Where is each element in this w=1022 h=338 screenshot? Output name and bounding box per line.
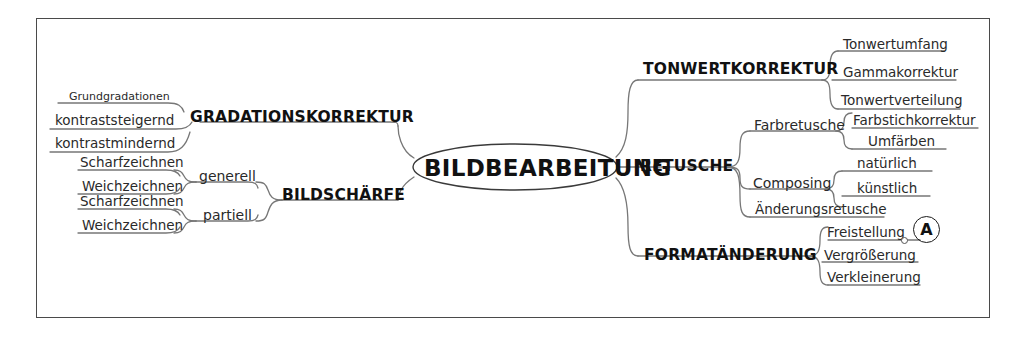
leaf-label-tonwertumfang[interactable]: Tonwertumfang (843, 38, 948, 52)
mid-label-composing[interactable]: Composing (753, 176, 831, 190)
leaf-label-natuerlich[interactable]: natürlich (857, 157, 917, 171)
leaf-label-tonwertverteilung[interactable]: Tonwertverteilung (841, 94, 963, 108)
leaf-label-grundgradationen[interactable]: Grundgradationen (69, 91, 170, 102)
cursor-dot-icon (901, 237, 908, 244)
branch-label-formataenderung[interactable]: FORMATÄNDERUNG (644, 248, 817, 264)
leaf-label-weichzeichnen-generell[interactable]: Weichzeichnen (82, 180, 183, 194)
leaf-label-vergroesserung[interactable]: Vergrößerung (824, 249, 916, 263)
branch-label-bildschaerfe[interactable]: BILDSCHÄRFE (282, 188, 405, 204)
branch-label-retusche[interactable]: RETUSCHE (640, 159, 733, 175)
leaf-label-farbstichkorrektur[interactable]: Farbstichkorrektur (853, 114, 976, 128)
leaf-label-weichzeichnen-partiell[interactable]: Weichzeichnen (82, 219, 183, 233)
leaf-label-kuenstlich[interactable]: künstlich (857, 182, 917, 196)
branch-label-gradationskorrektur[interactable]: GRADATIONSKORREKTUR (190, 110, 414, 126)
mindmap-canvas: BILDBEARBEITUNG GRADATIONSKORREKTUR Grun… (0, 0, 1022, 338)
leaf-label-kontraststeigernd[interactable]: kontraststeigernd (55, 114, 174, 128)
leaf-label-umfaerben[interactable]: Umfärben (868, 135, 935, 149)
branch-label-tonwertkorrektur[interactable]: TONWERTKORREKTUR (643, 62, 838, 78)
leaf-label-gammakorrektur[interactable]: Gammakorrektur (843, 66, 958, 80)
leaf-label-freistellung[interactable]: Freistellung (827, 226, 905, 240)
leaf-label-verkleinerung[interactable]: Verkleinerung (827, 271, 921, 285)
mid-label-farbretusche[interactable]: Farbretusche (754, 118, 845, 132)
leaf-label-scharfzeichnen-generell[interactable]: Scharfzeichnen (80, 156, 184, 170)
leaf-label-scharfzeichnen-partiell[interactable]: Scharfzeichnen (80, 195, 184, 209)
leaf-label-kontrastmindernd[interactable]: kontrastmindernd (55, 137, 175, 151)
annotation-marker-a[interactable]: A (913, 216, 940, 243)
mid-label-generell[interactable]: generell (199, 169, 256, 183)
leaf-label-aenderungsretusche[interactable]: Änderungsretusche (755, 203, 887, 217)
root-node-label[interactable]: BILDBEARBEITUNG (424, 155, 671, 181)
mid-label-partiell[interactable]: partiell (203, 208, 252, 222)
